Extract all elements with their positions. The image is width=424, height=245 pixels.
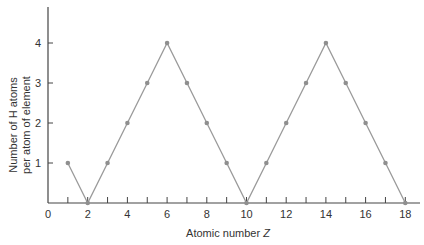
data-point bbox=[145, 81, 150, 86]
data-point bbox=[205, 121, 210, 126]
y-tick-label: 3 bbox=[35, 77, 41, 89]
data-point bbox=[185, 81, 190, 86]
y-axis-label-line2: per atom of element bbox=[20, 76, 32, 174]
data-point bbox=[403, 201, 408, 206]
x-tick-label: 8 bbox=[204, 208, 210, 220]
data-point bbox=[66, 161, 71, 166]
y-tick-label: 1 bbox=[35, 157, 41, 169]
x-tick-label: 14 bbox=[320, 208, 332, 220]
x-tick-label: 10 bbox=[240, 208, 252, 220]
x-tick-label: 12 bbox=[280, 208, 292, 220]
data-point bbox=[244, 201, 249, 206]
data-point bbox=[224, 161, 229, 166]
data-point bbox=[85, 201, 90, 206]
x-tick-label: 4 bbox=[124, 208, 130, 220]
x-tick-label: 0 bbox=[45, 208, 51, 220]
x-axis-label: Atomic number Z bbox=[186, 227, 271, 239]
data-point bbox=[304, 81, 309, 86]
chart: 0246810121416181234 Atomic number Z Numb… bbox=[0, 0, 424, 245]
x-tick-label: 18 bbox=[399, 208, 411, 220]
data-point bbox=[264, 161, 269, 166]
data-series bbox=[66, 41, 408, 206]
data-point bbox=[165, 41, 170, 46]
data-point bbox=[343, 81, 348, 86]
data-point bbox=[105, 161, 110, 166]
data-point bbox=[284, 121, 289, 126]
x-tick-label: 16 bbox=[359, 208, 371, 220]
x-tick-label: 6 bbox=[164, 208, 170, 220]
data-point bbox=[324, 41, 329, 46]
series-line bbox=[68, 43, 406, 203]
axes: 0246810121416181234 bbox=[35, 7, 420, 220]
y-tick-label: 2 bbox=[35, 117, 41, 129]
x-tick-label: 2 bbox=[85, 208, 91, 220]
y-tick-label: 4 bbox=[35, 37, 41, 49]
data-point bbox=[363, 121, 368, 126]
data-point bbox=[125, 121, 130, 126]
data-point bbox=[383, 161, 388, 166]
y-axis-label-line1: Number of H atoms bbox=[7, 77, 19, 173]
